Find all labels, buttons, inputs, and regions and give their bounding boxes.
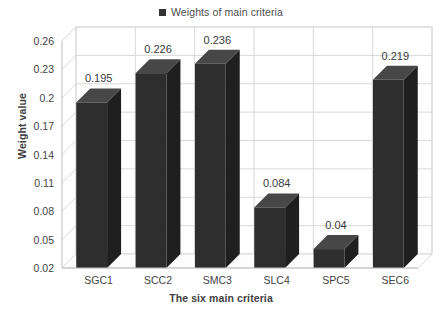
bar-chart: Weights of main criteria Weight value 0.… <box>0 0 442 315</box>
bar-value-label: 0.04 <box>325 219 346 231</box>
bar-value-label: 0.236 <box>204 34 232 46</box>
bar-data-labels: 0.1950.2260.2360.0840.040.219 <box>0 0 442 315</box>
bar-value-label: 0.219 <box>382 50 410 62</box>
bar-value-label: 0.084 <box>263 177 291 189</box>
bar-value-label: 0.195 <box>85 72 113 84</box>
x-axis-title: The six main criteria <box>0 292 442 304</box>
bar-value-label: 0.226 <box>144 43 172 55</box>
